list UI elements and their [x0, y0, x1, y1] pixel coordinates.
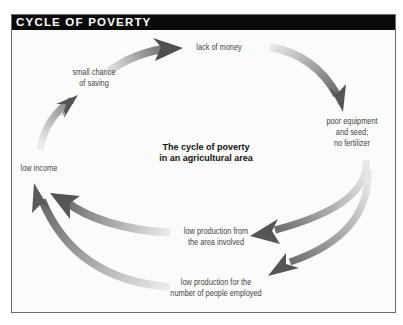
arrow-people-to-income — [32, 183, 170, 287]
arrow-money-to-equipment — [270, 47, 346, 112]
node-low-production-people: low production for the number of people … — [164, 277, 268, 299]
node-low-income: low income — [21, 163, 66, 174]
node-lack-of-money: lack of money — [188, 42, 251, 53]
node-text: number of people employed — [164, 288, 268, 299]
node-text: low production for the — [164, 277, 268, 288]
arrow-income-to-saving — [40, 95, 78, 150]
node-text: poor equipment — [320, 116, 385, 127]
node-text: lack of money — [188, 42, 251, 53]
node-text: small chance — [65, 67, 123, 78]
diagram-caption: The cycle of poverty in an agricultural … — [148, 142, 264, 164]
arrow-equipment-to-people — [268, 170, 368, 276]
node-poor-equipment: poor equipment and seed; no fertilizer — [320, 116, 385, 149]
node-low-production-area: low production from the area involved — [173, 226, 259, 248]
node-text: no fertilizer — [320, 138, 385, 149]
node-small-chance-of-saving: small chance of saving — [65, 67, 123, 89]
node-text: of saving — [65, 78, 123, 89]
node-text: the area involved — [173, 237, 259, 248]
caption-line: in an agricultural area — [148, 153, 264, 164]
node-text: low production from — [173, 226, 259, 237]
node-text: low income — [21, 163, 66, 174]
node-text: and seed; — [320, 127, 385, 138]
caption-line: The cycle of poverty — [148, 142, 264, 153]
arrow-area-to-income — [50, 193, 170, 233]
